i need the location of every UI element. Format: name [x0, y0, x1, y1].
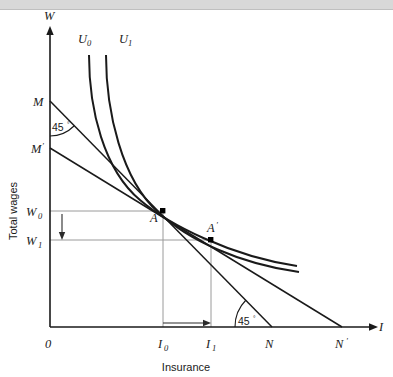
curve-labels: U 0 U 1 — [78, 32, 132, 48]
point-a-marker — [160, 208, 165, 213]
x-tick-label-n-prime-sub: ′ — [346, 336, 348, 346]
x-tick-label-i0: I — [157, 337, 163, 351]
economics-diagram: U 0 U 1 A A ′ M M ′ W 0 W 1 0 I 0 I 1 N … — [0, 0, 393, 377]
insurance-increase-arrowhead — [203, 320, 211, 326]
x-axis-name: I — [378, 320, 384, 334]
grid-lines — [50, 211, 211, 327]
angle-label-at-m: 45 — [52, 121, 64, 133]
x-tick-label-i1-sub: 1 — [212, 343, 216, 353]
y-tick-label-w1-sub: 1 — [38, 240, 42, 250]
y-tick-label-w1: W — [26, 234, 38, 248]
y-axis-tick-labels: M M ′ W 0 W 1 — [26, 95, 44, 250]
y-axis-arrowhead — [46, 26, 53, 35]
angle-label-at-n: 45 — [238, 315, 250, 327]
curve-label-u0-sub: 0 — [87, 38, 92, 48]
budget-line-mprime-nprime — [50, 148, 342, 327]
y-axis-title: Total wages — [7, 181, 19, 240]
indifference-curves — [89, 55, 299, 272]
indifference-curve-u0 — [89, 55, 297, 266]
x-axis-tick-labels: 0 I 0 I 1 N N ′ — [45, 336, 348, 353]
point-label-a-prime: A — [206, 221, 215, 235]
x-tick-label-n-prime: N — [334, 337, 344, 351]
angle-degree-at-n: ° — [253, 315, 256, 322]
angle-degree-at-m: ° — [67, 121, 70, 128]
x-tick-label-i0-sub: 0 — [164, 343, 169, 353]
axes — [46, 26, 378, 331]
curve-label-u1-sub: 1 — [128, 38, 132, 48]
axis-name-labels: W I — [44, 9, 384, 334]
y-tick-label-m-prime: M — [30, 142, 42, 156]
y-tick-label-m: M — [32, 95, 44, 109]
indifference-curve-u1 — [106, 55, 299, 272]
x-axis-arrowhead — [369, 323, 378, 330]
y-axis-name: W — [44, 9, 56, 23]
x-axis-title: Insurance — [162, 361, 210, 373]
y-tick-label-w0-sub: 0 — [38, 211, 43, 221]
origin-label: 0 — [45, 337, 52, 351]
point-label-a: A — [149, 211, 158, 225]
y-tick-label-w0: W — [26, 205, 38, 219]
point-label-a-prime-sub: ′ — [216, 220, 218, 230]
y-tick-label-m-prime-sub: ′ — [42, 141, 44, 151]
x-tick-label-i1: I — [205, 337, 211, 351]
budget-lines — [50, 101, 342, 327]
x-tick-label-n: N — [264, 337, 274, 351]
equilibrium-points — [160, 208, 213, 242]
point-a-prime-marker — [208, 237, 213, 242]
wage-decrease-arrowhead — [59, 232, 65, 240]
